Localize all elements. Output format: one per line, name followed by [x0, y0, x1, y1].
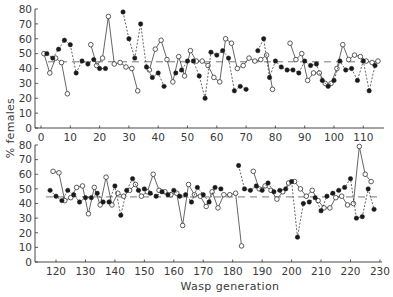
x-tick-label: 160: [164, 265, 184, 277]
open-circle-marker: [65, 91, 70, 96]
open-circle-marker: [298, 187, 303, 192]
filled-circle-marker: [144, 65, 148, 69]
filled-circle-marker: [313, 195, 317, 199]
open-circle-marker: [333, 195, 338, 200]
open-circle-marker: [258, 57, 263, 62]
open-circle-marker: [206, 63, 211, 68]
filled-circle-marker: [71, 193, 75, 197]
filled-circle-marker: [319, 209, 323, 213]
x-tick-label: 10: [64, 131, 77, 143]
open-circle-marker: [151, 172, 156, 177]
open-circle-marker: [253, 59, 258, 64]
filled-circle-marker: [77, 200, 81, 204]
open-circle-marker: [241, 63, 246, 68]
open-circle-marker: [346, 57, 351, 62]
y-tick-label: 40: [19, 197, 32, 209]
filled-circle-marker: [360, 214, 364, 218]
open-circle-marker: [369, 179, 374, 184]
line-chart: 0102030405060708001020304050607080901001…: [0, 0, 393, 297]
x-tick-label: 50: [181, 131, 194, 143]
open-circle-marker: [270, 87, 275, 92]
x-tick-label: 210: [311, 265, 331, 277]
open-circle-marker: [328, 206, 333, 211]
open-circle-marker: [305, 78, 310, 83]
open-circle-marker: [212, 75, 217, 80]
open-circle-marker: [304, 194, 309, 199]
open-circle-marker: [204, 204, 209, 209]
filled-circle-marker: [54, 194, 58, 198]
filled-circle-marker: [219, 187, 223, 191]
open-circle-marker: [188, 48, 193, 53]
filled-circle-marker: [160, 190, 164, 194]
filled-circle-marker: [291, 68, 295, 72]
y-tick-label: 80: [19, 3, 32, 15]
open-series-line: [53, 171, 241, 246]
open-circle-marker: [352, 53, 357, 58]
y-tick-label: 30: [19, 77, 32, 89]
filled-circle-marker: [148, 191, 152, 195]
open-circle-marker: [165, 57, 170, 62]
filled-circle-marker: [278, 188, 282, 192]
filled-circle-marker: [337, 188, 341, 192]
open-circle-marker: [104, 175, 109, 180]
open-circle-marker: [345, 203, 350, 208]
filled-circle-marker: [266, 181, 270, 185]
filled-circle-marker: [95, 191, 99, 195]
open-circle-marker: [310, 188, 315, 193]
open-circle-marker: [229, 41, 234, 46]
filled-circle-marker: [203, 96, 207, 100]
x-tick-label: 230: [370, 265, 390, 277]
x-tick-label: 30: [122, 131, 135, 143]
open-circle-marker: [222, 192, 227, 197]
filled-circle-marker: [138, 22, 142, 26]
y-tick-label: 80: [19, 139, 32, 151]
filled-circle-marker: [244, 87, 248, 91]
open-series-line: [91, 16, 138, 90]
filled-circle-marker: [97, 66, 101, 70]
open-circle-marker: [216, 206, 221, 211]
open-circle-marker: [186, 182, 191, 187]
filled-circle-marker: [285, 68, 289, 72]
y-tick-label: 30: [19, 212, 32, 224]
filled-circle-marker: [45, 51, 49, 55]
filled-circle-marker: [314, 62, 318, 66]
open-circle-marker: [335, 66, 340, 71]
filled-circle-marker: [326, 84, 330, 88]
filled-circle-marker: [80, 59, 84, 63]
filled-circle-marker: [66, 188, 70, 192]
open-circle-marker: [80, 184, 85, 189]
y-tick-label: 20: [19, 92, 32, 104]
x-tick-label: 70: [239, 131, 252, 143]
open-circle-marker: [233, 191, 238, 196]
x-axis-label: Wasp generation: [181, 280, 280, 293]
y-tick-label: 70: [19, 153, 32, 165]
open-circle-marker: [251, 169, 256, 174]
filled-circle-marker: [297, 71, 301, 75]
open-circle-marker: [227, 192, 232, 197]
open-circle-marker: [74, 185, 79, 190]
filled-circle-marker: [325, 194, 329, 198]
bottom-panel: 0102030405060708012013014015016017018019…: [19, 139, 390, 277]
filled-circle-marker: [162, 84, 166, 88]
filled-circle-marker: [156, 71, 160, 75]
open-circle-marker: [59, 60, 64, 65]
open-circle-marker: [86, 211, 91, 216]
filled-circle-marker: [191, 59, 195, 63]
filled-circle-marker: [154, 194, 158, 198]
filled-circle-marker: [254, 184, 258, 188]
open-circle-marker: [357, 144, 362, 149]
x-tick-label: 150: [134, 265, 154, 277]
filled-circle-marker: [189, 200, 193, 204]
open-circle-marker: [89, 42, 94, 47]
x-tick-label: 40: [152, 131, 165, 143]
filled-circle-marker: [289, 179, 293, 183]
x-tick-label: 110: [353, 131, 373, 143]
open-circle-marker: [223, 36, 228, 41]
open-circle-marker: [363, 172, 368, 177]
filled-circle-marker: [51, 56, 55, 60]
filled-circle-marker: [372, 207, 376, 211]
open-circle-marker: [118, 60, 123, 65]
filled-circle-marker: [213, 185, 217, 189]
filled-circle-marker: [332, 78, 336, 82]
filled-circle-marker: [133, 56, 137, 60]
